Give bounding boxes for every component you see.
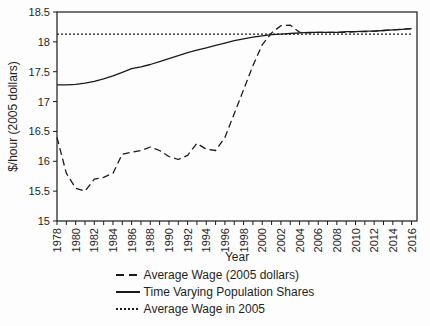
svg-text:2000: 2000	[256, 228, 268, 252]
dashed-line-sample-icon	[116, 274, 140, 276]
svg-text:2016: 2016	[406, 228, 418, 252]
svg-text:1984: 1984	[107, 228, 119, 252]
series-line-dashed	[57, 25, 412, 191]
svg-text:2010: 2010	[350, 228, 362, 252]
legend-item-population-shares: Time Varying Population Shares	[116, 283, 315, 300]
legend-label-population-shares: Time Varying Population Shares	[144, 285, 315, 299]
svg-text:1980: 1980	[70, 228, 82, 252]
svg-text:18.5: 18.5	[29, 6, 50, 18]
svg-text:15.5: 15.5	[29, 185, 50, 197]
svg-text:1992: 1992	[182, 228, 194, 252]
svg-text:17: 17	[38, 96, 50, 108]
svg-text:Year: Year	[225, 250, 249, 264]
svg-text:16: 16	[38, 155, 50, 167]
svg-text:1988: 1988	[144, 228, 156, 252]
svg-text:2014: 2014	[387, 228, 399, 252]
svg-text:16.5: 16.5	[29, 125, 50, 137]
svg-text:1994: 1994	[200, 228, 212, 252]
svg-text:$/hour (2005 dollars): $/hour (2005 dollars)	[6, 61, 20, 172]
legend-item-average-wage: Average Wage (2005 dollars)	[116, 266, 299, 283]
wage-line-chart-figure: 1515.51616.51717.51818.51978198019821984…	[0, 0, 430, 326]
svg-text:15: 15	[38, 215, 50, 227]
svg-text:1998: 1998	[238, 228, 250, 252]
legend-item-average-wage-2005: Average Wage in 2005	[116, 300, 265, 317]
svg-text:1996: 1996	[219, 228, 231, 252]
svg-text:1978: 1978	[51, 228, 63, 252]
svg-text:18: 18	[38, 36, 50, 48]
svg-text:17.5: 17.5	[29, 66, 50, 78]
svg-text:1986: 1986	[126, 228, 138, 252]
legend-label-average-wage-2005: Average Wage in 2005	[144, 302, 265, 316]
svg-text:1990: 1990	[163, 228, 175, 252]
solid-line-sample-icon	[116, 291, 140, 293]
svg-text:2006: 2006	[312, 228, 324, 252]
dotted-line-sample-icon	[116, 308, 140, 310]
chart-legend: Average Wage (2005 dollars) Time Varying…	[0, 266, 430, 317]
svg-text:2002: 2002	[275, 228, 287, 252]
line-chart-plot-area: 1515.51616.51717.51818.51978198019821984…	[0, 0, 430, 266]
chart-legend-entries: Average Wage (2005 dollars) Time Varying…	[116, 266, 315, 317]
legend-label-average-wage: Average Wage (2005 dollars)	[144, 268, 299, 282]
svg-text:1982: 1982	[88, 228, 100, 252]
series-line-solid	[57, 29, 412, 85]
svg-text:2008: 2008	[331, 228, 343, 252]
svg-text:2012: 2012	[368, 228, 380, 252]
svg-text:2004: 2004	[294, 228, 306, 252]
